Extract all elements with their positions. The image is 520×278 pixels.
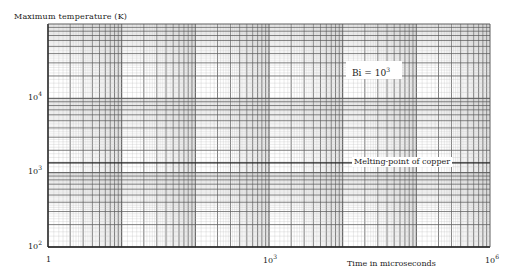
melting-point-label: Melting-point of copper <box>352 157 452 167</box>
y-tick-1e3: 103 <box>28 164 42 176</box>
bi-text: Bi = 10 <box>352 68 386 78</box>
y-tick-1e2: 102 <box>28 239 42 251</box>
x-axis-label: Time in microseconds <box>347 259 436 268</box>
y-tick-1e4: 104 <box>28 90 42 102</box>
biot-number-label: Bi = 103 <box>346 61 402 79</box>
log-log-grid <box>0 0 520 278</box>
bi-exp: 3 <box>386 66 390 73</box>
x-tick-base: 10 <box>485 256 495 265</box>
x-tick-1e6: 106 <box>485 253 499 265</box>
x-tick-1e3: 103 <box>263 253 277 265</box>
y-tick-exp: 4 <box>38 90 42 97</box>
x-tick-exp: 3 <box>273 253 277 260</box>
y-tick-base: 10 <box>28 242 38 251</box>
y-tick-exp: 2 <box>38 239 42 246</box>
y-tick-exp: 3 <box>38 164 42 171</box>
x-tick-1: 1 <box>46 255 51 264</box>
x-tick-exp: 6 <box>495 253 499 260</box>
x-tick-base: 10 <box>263 256 273 265</box>
y-tick-base: 10 <box>28 167 38 176</box>
y-tick-base: 10 <box>28 93 38 102</box>
